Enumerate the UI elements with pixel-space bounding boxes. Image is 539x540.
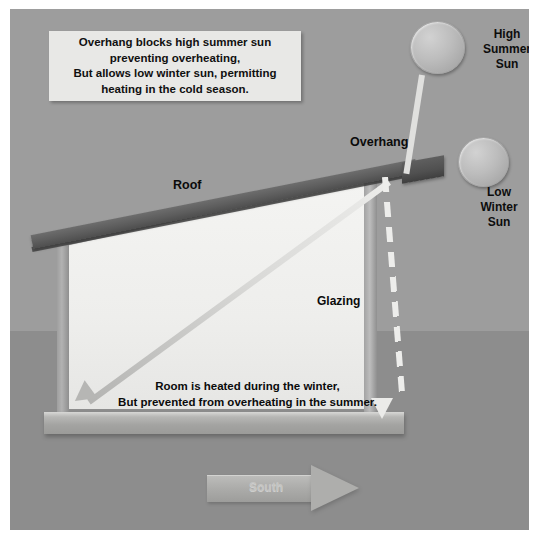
south-arrow-head xyxy=(311,465,359,511)
winter-label-line-2: Winter xyxy=(465,200,529,215)
south-arrow-label: South xyxy=(225,480,307,494)
caption-box: Overhang blocks high summer sun preventi… xyxy=(49,31,301,101)
room-description-text: Room is heated during the winter, But pr… xyxy=(95,379,400,410)
low-winter-sun-icon xyxy=(458,137,509,187)
caption-line-3: But allows low winter sun, permitting xyxy=(73,66,276,82)
high-summer-sun-icon xyxy=(410,21,465,74)
caption-line-4: heating in the cold season. xyxy=(101,82,249,98)
roof-label: Roof xyxy=(173,178,201,192)
high-summer-sun-label: High Summer Sun xyxy=(474,27,529,72)
low-winter-sun-label: Low Winter Sun xyxy=(465,185,529,230)
winter-label-line-3: Sun xyxy=(465,215,529,230)
caption-line-2: preventing overheating, xyxy=(110,51,240,67)
glazing-label: Glazing xyxy=(317,294,360,308)
winter-label-line-1: Low xyxy=(465,185,529,200)
overhang-label: Overhang xyxy=(350,135,408,149)
summer-label-line-1: High xyxy=(474,27,529,42)
room-text-line-1: Room is heated during the winter, xyxy=(95,379,400,395)
floor-slab xyxy=(44,412,404,434)
right-wall-post xyxy=(364,172,377,414)
summer-label-line-2: Summer xyxy=(474,42,529,57)
diagram-canvas: Overhang blocks high summer sun preventi… xyxy=(0,0,539,540)
summer-label-line-3: Sun xyxy=(474,57,529,72)
left-wall-post xyxy=(57,242,69,414)
south-direction-arrow-icon: South xyxy=(207,465,359,511)
diagram-panel: Overhang blocks high summer sun preventi… xyxy=(10,9,529,530)
room-text-line-2: But prevented from overheating in the su… xyxy=(95,395,400,411)
caption-line-1: Overhang blocks high summer sun xyxy=(79,35,271,51)
